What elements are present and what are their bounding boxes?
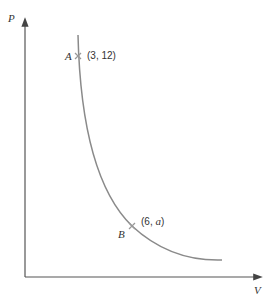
y-axis-label: P: [8, 12, 15, 24]
point-b-marker: [129, 223, 135, 229]
coord-prefix: (6,: [141, 216, 155, 227]
x-axis-label: V: [254, 284, 261, 296]
coord-suffix: ): [161, 216, 164, 227]
pv-diagram: [0, 0, 273, 298]
point-a-coord: (3, 12): [87, 50, 116, 61]
point-b-coord: (6, a): [141, 215, 164, 227]
point-a-label: A: [65, 50, 72, 62]
point-b-label: B: [118, 228, 125, 240]
